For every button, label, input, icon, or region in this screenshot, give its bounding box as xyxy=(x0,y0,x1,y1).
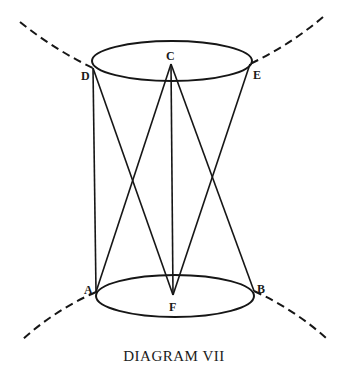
line-E-F xyxy=(173,64,250,295)
label-D: D xyxy=(81,69,90,83)
line-D-A xyxy=(93,68,96,292)
diagram-figure: C D E A B F DIAGRAM VII xyxy=(0,0,348,367)
label-C: C xyxy=(166,49,175,63)
line-C-F xyxy=(171,64,173,295)
dashed-curve-bottom-left xyxy=(22,292,96,340)
label-A: A xyxy=(84,283,93,297)
dashed-curve-top-left xyxy=(20,22,93,68)
dashed-curve-bottom-right xyxy=(254,291,326,338)
label-F: F xyxy=(169,300,176,314)
label-B: B xyxy=(257,282,265,296)
dashed-curve-top-right xyxy=(250,17,323,64)
line-C-B xyxy=(171,64,254,291)
label-E: E xyxy=(253,68,261,82)
diagram-caption: DIAGRAM VII xyxy=(123,348,224,364)
